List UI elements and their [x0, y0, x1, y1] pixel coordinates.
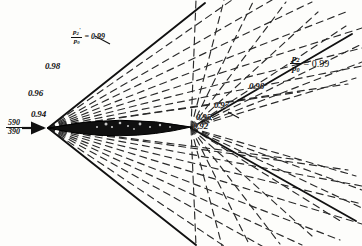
inlet-numerator: 590	[6, 119, 22, 127]
pressure-ratio-left-label: p2' p0 = 0.99	[71, 28, 105, 46]
contour-0-92-right: 0.92	[193, 122, 208, 131]
ratio-left-value: = 0.99	[82, 33, 105, 41]
contour-0-96-upper: 0.96	[28, 89, 43, 98]
flow-field-diagram	[0, 0, 362, 246]
ratio-right-denominator: p0	[290, 63, 302, 73]
ratio-right-value: = 0.99	[302, 59, 330, 69]
inlet-denominator: 390	[6, 127, 22, 136]
ratio-left-numerator: p2'	[71, 28, 82, 37]
contour-0-97-right: 0.97	[214, 101, 229, 110]
contour-0-98-right: 0.98	[249, 82, 264, 91]
contour-0-98-upper: 0.98	[45, 62, 60, 71]
pressure-ratio-right-label: p2 p0 = 0.99	[290, 54, 329, 74]
ratio-right-numerator: p2	[290, 54, 302, 63]
lower-trailing-boundary	[191, 128, 356, 221]
ratio-left-denominator: p0	[71, 37, 82, 46]
inlet-velocity-fraction: 590 390	[6, 119, 22, 136]
aerodynamics-figure: 590 390 p2' p0 = 0.99 p2 p0 = 0.99 0.980…	[0, 0, 362, 246]
contour-0-94-upper: 0.94	[31, 110, 46, 119]
leading-edge-lower-fan	[48, 128, 362, 246]
trailing-edge-lower-fan	[191, 128, 362, 246]
